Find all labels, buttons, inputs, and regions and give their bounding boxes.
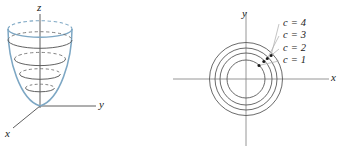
contour-label-2: c = 2 [283, 43, 306, 54]
x-axis-line [13, 106, 40, 128]
y-axis-label-right: y [242, 8, 247, 19]
z-axis-label: z [37, 2, 41, 13]
paraboloid-surface-plot: z y x [0, 0, 171, 151]
leader-line-1 [259, 61, 279, 65]
contour-label-3: c = 3 [283, 30, 306, 41]
leader-dot-3 [266, 57, 269, 60]
paraboloid-right-profile [40, 29, 72, 106]
x-axis-label-left: x [5, 128, 10, 139]
figure-container: z y x y x c = 4 c = 3 [0, 0, 343, 151]
level-curves-contour-map: y x c = 4 c = 3 c = 2 c = 1 [171, 0, 343, 151]
x-axis-label-right: x [331, 72, 336, 83]
paraboloid-drawing [0, 0, 171, 151]
y-axis-label-left: y [99, 99, 104, 110]
contour-label-1: c = 1 [283, 55, 306, 66]
contour-label-4: c = 4 [283, 18, 306, 29]
leader-dot-2 [262, 60, 265, 63]
leader-line-4 [271, 24, 279, 55]
leader-dot-4 [270, 54, 273, 57]
paraboloid-left-profile [8, 29, 40, 106]
leader-dot-1 [258, 64, 261, 67]
contour-map-drawing [171, 0, 343, 151]
